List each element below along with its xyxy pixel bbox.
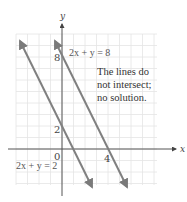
equation-bottom: 2x + y = 2	[16, 160, 57, 171]
tick-y8: 8	[54, 52, 60, 63]
note-line-3: no solution.	[97, 92, 147, 103]
equation-top: 2x + y = 8	[69, 47, 110, 58]
note-line-1: The lines do	[97, 66, 149, 77]
line-2x-y-8	[55, 41, 127, 187]
y-axis-label: y	[59, 11, 66, 21]
tick-x4: 4	[104, 153, 110, 164]
chart: y x 8 2 0 4 2x + y = 8 2x + y = 2 The li…	[0, 0, 187, 202]
note-line-2: not intersect;	[97, 79, 152, 90]
tick-y2: 2	[54, 124, 60, 135]
x-axis-label: x	[180, 144, 185, 154]
